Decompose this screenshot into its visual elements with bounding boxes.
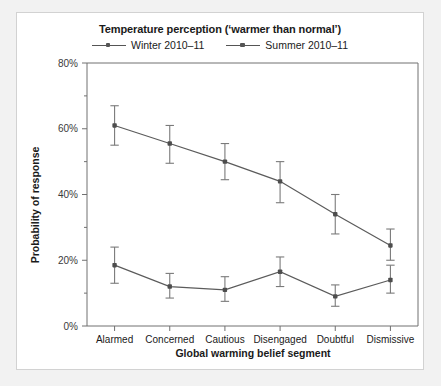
y-tick-label: 20% xyxy=(58,255,78,266)
data-point xyxy=(333,212,337,216)
x-axis-title: Global warming belief segment xyxy=(175,347,331,359)
data-point xyxy=(278,270,282,274)
y-tick-label: 80% xyxy=(58,58,78,69)
chart-figure-panel: Temperature perception (‘warmer than nor… xyxy=(16,12,424,370)
plot-area: 0%20%40%60%80% AlarmedConcernedCautiousD… xyxy=(17,13,425,371)
data-point xyxy=(223,288,227,292)
x-tick-label: Doubtful xyxy=(317,334,354,345)
x-tick-label: Alarmed xyxy=(96,334,133,345)
data-point xyxy=(333,294,337,298)
x-tick-label: Cautious xyxy=(205,334,244,345)
y-axis-title: Probability of response xyxy=(29,147,41,264)
data-point xyxy=(168,141,172,145)
data-series xyxy=(110,106,394,307)
series-winter xyxy=(110,106,394,261)
y-tick-label: 40% xyxy=(58,189,78,200)
y-tick-label: 0% xyxy=(64,321,79,332)
y-tick-label: 60% xyxy=(58,123,78,134)
data-point xyxy=(278,179,282,183)
data-point xyxy=(388,278,392,282)
x-tick-label: Concerned xyxy=(145,334,194,345)
y-axis-ticks: 0%20%40%60%80% xyxy=(58,58,87,332)
data-point xyxy=(112,123,116,127)
x-tick-label: Dismissive xyxy=(367,334,415,345)
series-summer xyxy=(110,247,394,306)
x-tick-label: Disengaged xyxy=(253,334,306,345)
x-axis-ticks: AlarmedConcernedCautiousDisengagedDoubtf… xyxy=(96,326,415,345)
data-point xyxy=(223,159,227,163)
data-point xyxy=(112,263,116,267)
data-point xyxy=(388,243,392,247)
data-point xyxy=(168,284,172,288)
